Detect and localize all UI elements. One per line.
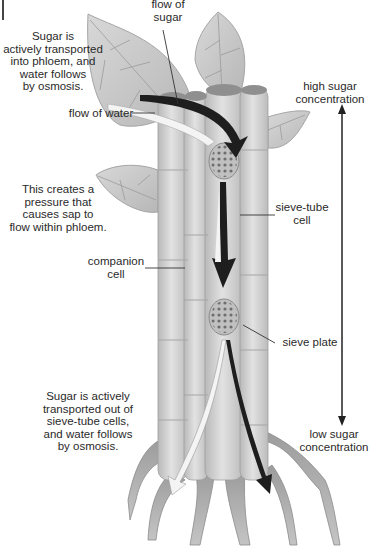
phloem-diagram: flow of sugar Sugar is actively transpor… — [0, 0, 370, 554]
label-sieve-tube-cell: sieve-tube cell — [272, 201, 332, 226]
leaf-right — [268, 111, 310, 148]
label-sieve-plate: sieve plate — [275, 336, 345, 349]
label-high-sugar-concentration: high sugar concentration — [290, 80, 370, 105]
sieve-plate-lower — [209, 299, 239, 335]
label-flow-of-water: flow of water — [66, 107, 136, 120]
label-sugar-into-phloem: Sugar is actively transported into phloe… — [2, 30, 104, 93]
label-low-sugar-concentration: low sugar concentration — [298, 428, 370, 453]
label-sugar-out: Sugar is actively transported out of sie… — [36, 390, 140, 453]
concentration-arrow — [338, 104, 346, 426]
label-companion-cell: companion cell — [86, 255, 146, 280]
label-pressure: This creates a pressure that causes sap … — [8, 183, 108, 233]
leaf-top-right — [195, 12, 245, 96]
corner-mark — [2, 0, 4, 20]
label-flow-of-sugar: flow of sugar — [138, 0, 198, 23]
